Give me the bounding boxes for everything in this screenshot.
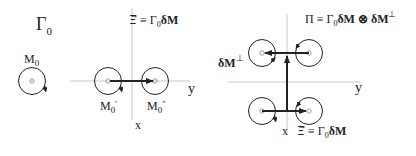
precession-arrow-icon xyxy=(297,44,299,47)
panel-3: Π ≡ Γ0δM ⊗ δM⊥ δM⊥ y x xyxy=(218,9,396,140)
x-axis-label: x xyxy=(135,118,141,132)
y-axis-label: y xyxy=(188,81,195,96)
xi-equation-bottom: Ξ⃗ ≡ Γ0δM xyxy=(297,124,346,140)
m0-label: M0 xyxy=(24,52,40,68)
delta-m-perp-label: δM⊥ xyxy=(218,53,244,70)
diagram-canvas: Γ0 M0 Ξ⃗ ≡ Γ0δM M0' M0'' y x Π xyxy=(0,0,416,156)
precession-arrow-icon xyxy=(121,86,122,90)
gamma0-title: Γ0 xyxy=(36,14,52,37)
m0-double-prime-label: M0'' xyxy=(147,99,166,115)
x-axis-label: x xyxy=(282,124,288,138)
y-axis-label: y xyxy=(355,80,362,95)
precession-arrow-icon xyxy=(45,86,46,90)
xi-equation: Ξ⃗ ≡ Γ0δM xyxy=(129,13,178,29)
pi-equation: Π ≡ Γ0δM ⊗ δM⊥ xyxy=(305,9,396,28)
panel-1: Γ0 M0 xyxy=(19,14,53,95)
m0-circle xyxy=(19,68,46,95)
precession-arrow-icon xyxy=(275,116,276,120)
precession-arrow-icon xyxy=(271,59,274,62)
panel-2: Ξ⃗ ≡ Γ0δM M0' M0'' y x xyxy=(70,8,195,132)
m0-prime-label: M0' xyxy=(100,99,117,115)
